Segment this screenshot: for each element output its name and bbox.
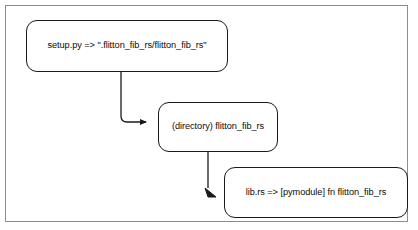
diagram-frame: setup.py => ".flitton_fib_rs/flitton_fib… [5, 5, 408, 222]
node-lib-rs-label: lib.rs => [pymodule] fn flitton_fib_rs [246, 188, 387, 197]
node-setup-py[interactable]: setup.py => ".flitton_fib_rs/flitton_fib… [26, 20, 228, 72]
node-setup-py-label: setup.py => ".flitton_fib_rs/flitton_fib… [47, 41, 206, 50]
node-directory-label: (directory) flitton_fib_rs [172, 122, 264, 131]
node-lib-rs[interactable]: lib.rs => [pymodule] fn flitton_fib_rs [224, 167, 408, 218]
edge-setup-py-to-directory [121, 67, 146, 122]
edge-directory-to-lib-rs-head [205, 188, 216, 197]
node-directory[interactable]: (directory) flitton_fib_rs [158, 102, 278, 152]
